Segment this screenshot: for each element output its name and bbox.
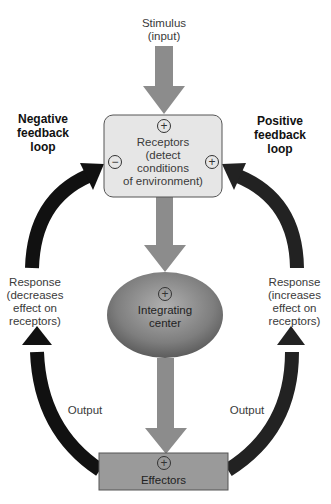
negative-output-arrow [22, 326, 100, 470]
stimulus-line2: (input) [124, 30, 204, 43]
receptors-line1: Receptors [104, 136, 222, 149]
stimulus-arrow [143, 46, 185, 114]
center-to-effectors-arrow [145, 358, 187, 454]
positive-response-arrow [222, 163, 297, 268]
effectors-label: Effectors [99, 474, 228, 487]
positive-response-line1: Response [258, 276, 331, 289]
receptors-plus-icon: + [157, 119, 171, 133]
integrating-center-line1: Integrating [115, 304, 215, 317]
negative-response-line4: receptors) [0, 315, 70, 328]
negative-loop-line2: feedback [8, 126, 78, 140]
positive-output-arrow [228, 326, 305, 470]
integrating-center-label: Integrating center [115, 304, 215, 330]
positive-loop-line1: Positive [245, 114, 315, 128]
positive-loop-line2: feedback [245, 128, 315, 142]
stimulus-line1: Stimulus [124, 17, 204, 30]
negative-response-line1: Response [0, 276, 70, 289]
positive-response-label: Response (increases effect on receptors) [258, 276, 331, 328]
positive-loop-title: Positive feedback loop [245, 114, 315, 156]
diagram-canvas [0, 0, 331, 504]
receptors-line4: of environment) [104, 175, 222, 188]
positive-response-line3: effect on [258, 302, 331, 315]
positive-output-label: Output [224, 404, 270, 417]
receptors-line2: (detect [104, 149, 222, 162]
negative-response-line3: effect on [0, 302, 70, 315]
negative-loop-line1: Negative [8, 112, 78, 126]
receptors-to-center-arrow [144, 197, 186, 272]
effectors-plus-icon: + [157, 456, 171, 470]
negative-loop-title: Negative feedback loop [8, 112, 78, 154]
integrating-center-plus-icon: + [158, 287, 172, 301]
negative-loop-line3: loop [8, 140, 78, 154]
receptors-label: Receptors (detect conditions of environm… [104, 136, 222, 188]
integrating-center-line2: center [115, 317, 215, 330]
receptors-line3: conditions [104, 162, 222, 175]
positive-response-line4: receptors) [258, 315, 331, 328]
negative-response-label: Response (decreases effect on receptors) [0, 276, 70, 328]
negative-response-arrow [32, 163, 104, 268]
stimulus-label: Stimulus (input) [124, 17, 204, 43]
negative-output-label: Output [62, 404, 108, 417]
negative-response-line2: (decreases [0, 289, 70, 302]
positive-loop-line3: loop [245, 142, 315, 156]
positive-response-line2: (increases [258, 289, 331, 302]
